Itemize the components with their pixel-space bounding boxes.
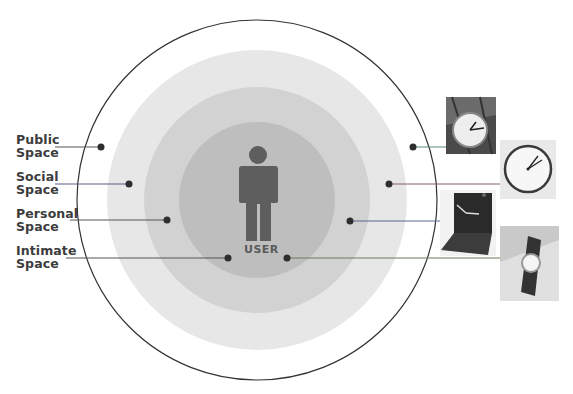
proxemics-diagram (0, 0, 573, 394)
label-intimate-space: Intimate Space (16, 244, 77, 270)
label-social-space: Social Space (16, 170, 59, 196)
label-public-space: Public Space (16, 133, 60, 159)
label-personal-line2: Space (16, 220, 78, 233)
label-public-line2: Space (16, 146, 60, 159)
wristwatch-photo (500, 226, 559, 301)
user-label: USER (244, 243, 279, 256)
wall-clock-photo (500, 140, 556, 199)
label-intimate-line2: Space (16, 257, 77, 270)
travel-alarm-clock-photo (440, 190, 496, 256)
station-clock-photo (446, 97, 496, 154)
label-social-line2: Space (16, 183, 59, 196)
label-personal-space: Personal Space (16, 207, 78, 233)
